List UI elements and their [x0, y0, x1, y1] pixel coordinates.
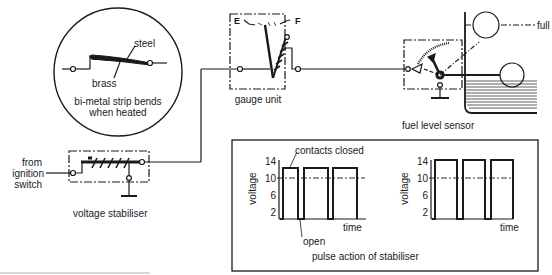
graph1-ytick-6: 6 — [260, 190, 276, 201]
graph2-xlabel: time — [500, 222, 519, 233]
annotation-contacts-closed: contacts closed — [295, 145, 364, 156]
graph2-ytick-2: 2 — [412, 207, 428, 218]
graph1-ytick-2: 2 — [260, 207, 276, 218]
graph2-ytick-6: 6 — [412, 190, 428, 201]
label-brass: brass — [92, 78, 116, 89]
graph1-ytick-14: 14 — [260, 156, 276, 167]
pulse-waveform-left — [280, 168, 357, 219]
input-label-line1: from — [2, 157, 42, 168]
input-label-line2: ignition — [2, 168, 44, 179]
bimetal-caption-line1: bi-metal strip bends — [68, 96, 168, 107]
pulse-waveform-right — [432, 160, 513, 219]
graph1-xlabel: time — [343, 222, 362, 233]
full-level-label: full — [537, 20, 550, 31]
fuel-level-sensor-label: fuel level sensor — [402, 120, 474, 131]
gauge-full-mark: F — [295, 16, 301, 27]
gauge-empty-mark: E — [234, 16, 240, 27]
graph2-ytick-14: 14 — [412, 156, 428, 167]
graph2-ylabel: voltage — [399, 169, 410, 209]
graph1-ylabel: voltage — [247, 169, 258, 209]
annotation-open: open — [303, 236, 325, 247]
fuel-liquid — [466, 81, 537, 108]
fuel-gauge-circuit-diagram — [0, 0, 552, 275]
label-steel: steel — [134, 38, 155, 49]
input-label-line3: switch — [2, 179, 42, 190]
graph2-ytick-10: 10 — [412, 173, 428, 184]
pulse-panel-caption: pulse action of stabiliser — [312, 251, 419, 262]
voltage-stabiliser-label: voltage stabiliser — [73, 208, 147, 219]
gauge-unit-label: gauge unit — [228, 94, 288, 105]
graph1-ytick-10: 10 — [260, 173, 276, 184]
bimetal-caption-line2: when heated — [68, 107, 168, 118]
